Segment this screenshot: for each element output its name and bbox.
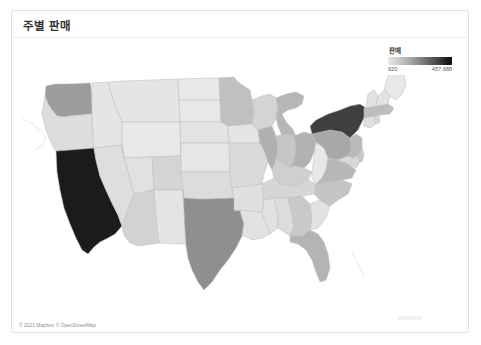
choropleth-map[interactable]: 판매 920 457,688 © 2021 Mapbox © OpenStree…	[12, 38, 468, 332]
legend-min-value: 920	[388, 66, 397, 72]
state-WY	[122, 122, 181, 158]
scale-bar-line	[398, 316, 422, 320]
state-FL	[290, 230, 330, 282]
legend-labels: 920 457,688	[388, 66, 452, 75]
map-scale-bar	[398, 316, 422, 320]
state-CO	[152, 156, 183, 190]
state-MN	[219, 77, 254, 126]
state-OK	[181, 172, 234, 199]
state-MO	[229, 143, 268, 188]
page-title: 주별 판매	[23, 17, 71, 33]
us-states-svg	[12, 38, 468, 332]
state-ND	[178, 78, 220, 100]
state-WI	[252, 94, 278, 130]
map-attribution[interactable]: © 2021 Mapbox © OpenStreetMap	[19, 323, 96, 328]
map-card: 주별 판매	[11, 10, 469, 333]
color-legend: 판매 920 457,688	[388, 45, 456, 75]
state-SD	[179, 100, 221, 122]
state-NM	[154, 190, 186, 244]
legend-max-value: 457,688	[432, 66, 452, 72]
legend-gradient-bar	[388, 57, 452, 65]
state-AR	[232, 184, 264, 212]
legend-title: 판매	[389, 45, 456, 55]
card-header: 주별 판매	[12, 11, 468, 38]
state-KS	[181, 143, 230, 172]
